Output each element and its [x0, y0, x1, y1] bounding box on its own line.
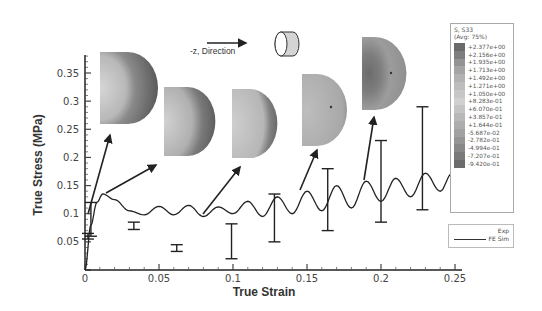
contour-swatch — [454, 129, 465, 137]
y-tick-label: 0.25 — [57, 124, 79, 135]
direction-label: -z, Direction — [190, 46, 235, 56]
contour-legend-row: -4.994e-01 — [454, 144, 505, 152]
contour-swatch — [454, 59, 465, 67]
x-tick-label: 0.1 — [225, 273, 241, 284]
y-tick-label: 0.15 — [57, 180, 79, 191]
series-legend: Exp FE Sim — [448, 224, 514, 248]
x-axis: 00.050.10.150.20.25 — [82, 264, 466, 284]
contour-value-label: +1.492e+00 — [468, 75, 505, 81]
contour-value-label: +3.857e-01 — [468, 114, 503, 120]
y-tick-label: 0.35 — [57, 68, 79, 79]
contour-legend: S, S33 (Avg: 75%) +2.377e+00+2.156e+00+1… — [450, 23, 514, 213]
contour-value-label: -9.420e-01 — [468, 161, 500, 167]
contour-legend-row: -7.207e-01 — [454, 152, 505, 160]
contour-value-label: +1.050e+00 — [468, 91, 505, 97]
contour-legend-variable: S, S33 — [454, 26, 513, 33]
contour-swatch — [454, 113, 465, 121]
legend-fe-label: FE Sim — [489, 235, 509, 242]
contour-legend-row: +1.271e+00 — [454, 82, 505, 90]
contour-swatch — [454, 98, 465, 106]
contour-value-label: -5.687e-02 — [468, 130, 500, 136]
y-tick-label: 0.05 — [57, 236, 79, 247]
legend-exp-label: Exp — [498, 227, 509, 234]
contour-swatch — [454, 74, 465, 82]
contour-swatch — [454, 90, 465, 98]
y-tick-label: 0.1 — [63, 208, 79, 219]
contour-value-label: -2.782e-01 — [468, 137, 500, 143]
contour-value-label: -4.994e-01 — [468, 145, 500, 151]
contour-swatch — [454, 144, 465, 152]
contour-swatch — [454, 152, 465, 160]
contour-inset-5 — [362, 37, 406, 110]
contour-swatch — [454, 105, 465, 113]
contour-swatch — [454, 66, 465, 74]
x-tick-label: 0.15 — [296, 273, 318, 284]
contour-swatch — [454, 51, 465, 59]
contour-legend-avg: (Avg: 75%) — [454, 33, 513, 40]
y-axis-label: True Stress (MPa) — [31, 114, 45, 215]
contour-value-label: +2.377e+00 — [468, 44, 505, 50]
contour-legend-row: +3.857e-01 — [454, 113, 505, 121]
contour-legend-row: +1.935e+00 — [454, 59, 505, 67]
x-tick-label: 0.2 — [373, 273, 389, 284]
contour-inset-2 — [164, 87, 215, 156]
y-tick-label: 0.3 — [63, 96, 79, 107]
contour-value-label: +8.283e-01 — [468, 98, 503, 104]
contour-inset-3 — [232, 89, 277, 158]
contour-legend-row: +2.156e+00 — [454, 51, 505, 59]
contour-inset-4 — [302, 74, 347, 146]
contour-swatch — [454, 137, 465, 145]
y-axis: 0.050.10.150.20.250.30.35 — [57, 55, 91, 270]
contour-legend-row: +1.492e+00 — [454, 74, 505, 82]
fe-sim-curve — [85, 173, 452, 270]
contour-legend-row: -2.782e-01 — [454, 137, 505, 145]
legend-fe-line — [454, 239, 486, 240]
x-tick-label: 0.25 — [444, 273, 466, 284]
contour-swatch — [454, 160, 465, 168]
contour-legend-title: S, S33 (Avg: 75%) — [451, 24, 513, 40]
contour-legend-row: +1.644e-01 — [454, 121, 505, 129]
contour-legend-row: +1.050e+00 — [454, 90, 505, 98]
contour-swatch — [454, 121, 465, 129]
contour-value-label: +1.271e+00 — [468, 83, 505, 89]
contour-legend-row: +6.070e-01 — [454, 105, 505, 113]
x-tick-label: 0 — [82, 273, 88, 284]
contour-legend-row: +2.377e+00 — [454, 43, 505, 51]
contour-legend-row: +1.713e+00 — [454, 66, 505, 74]
contour-legend-row: -9.420e-01 — [454, 160, 505, 168]
contour-value-label: +6.070e-01 — [468, 106, 503, 112]
contour-legend-row: -5.687e-02 — [454, 129, 505, 137]
contour-value-label: -7.207e-01 — [468, 153, 500, 159]
contour-swatch — [454, 82, 465, 90]
contour-legend-rows: +2.377e+00+2.156e+00+1.935e+00+1.713e+00… — [454, 43, 505, 168]
contour-swatch — [454, 43, 465, 51]
contour-value-label: +1.644e-01 — [468, 122, 503, 128]
contour-legend-row: +8.283e-01 — [454, 98, 505, 106]
x-axis-label: True Strain — [233, 285, 296, 299]
contour-inset-1 — [100, 52, 158, 124]
contour-value-label: +1.935e+00 — [468, 59, 505, 65]
x-tick-label: 0.05 — [148, 273, 170, 284]
contour-value-label: +1.713e+00 — [468, 67, 505, 73]
y-tick-label: 0.2 — [63, 152, 79, 163]
contour-value-label: +2.156e+00 — [468, 52, 505, 58]
